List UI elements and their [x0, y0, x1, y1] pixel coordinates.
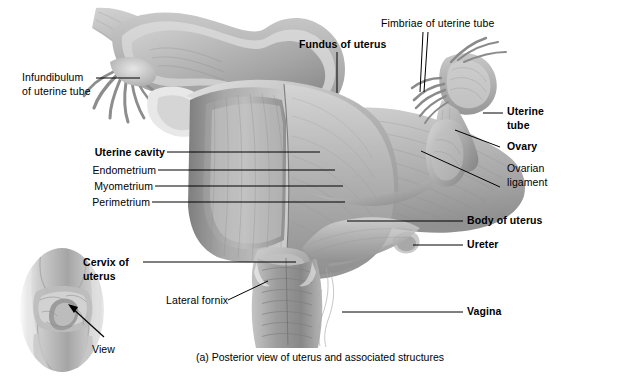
label-myometrium: Myometrium — [68, 180, 153, 194]
label-lateral-fornix: Lateral fornix — [166, 294, 228, 308]
label-endometrium: Endometrium — [68, 164, 156, 178]
label-perimetrium: Perimetrium — [68, 196, 150, 210]
vagina — [252, 258, 323, 348]
label-fundus: Fundus of uterus — [299, 38, 386, 52]
label-ureter: Ureter — [467, 238, 499, 252]
label-ovarian-ligament: Ovarian ligament — [507, 162, 548, 189]
label-fimbriae: Fimbriae of uterine tube — [381, 17, 494, 31]
label-ovary: Ovary — [507, 140, 537, 154]
label-uterine-tube: Uterine tube — [507, 105, 544, 132]
label-body-of-uterus: Body of uterus — [467, 214, 543, 228]
leader-fimbriae-b — [424, 32, 428, 92]
anatomy-figure: Infundibulum of uterine tube Uterine cav… — [0, 0, 633, 391]
label-uterine-cavity: Uterine cavity — [68, 146, 165, 160]
label-vagina: Vagina — [467, 305, 501, 319]
figure-caption: (a) Posterior view of uterus and associa… — [196, 351, 444, 363]
label-cervix: Cervix of uterus — [83, 256, 129, 283]
label-infundibulum: Infundibulum of uterine tube — [22, 71, 91, 98]
label-view: View — [92, 343, 115, 357]
